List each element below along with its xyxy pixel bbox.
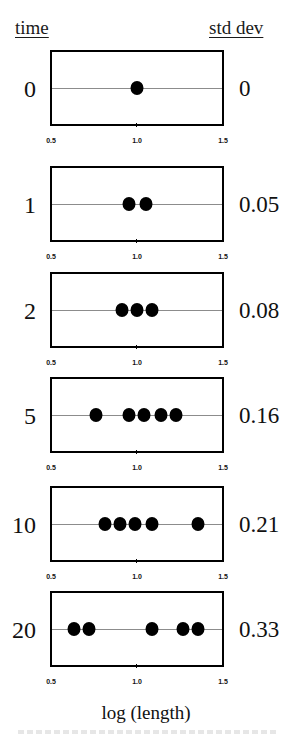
x-tick-label: 0.5: [46, 573, 56, 581]
std-dev-value-label: 0.21: [239, 513, 279, 537]
x-tick-label: 1.5: [218, 253, 228, 261]
x-tick-label: 0.5: [46, 464, 56, 472]
data-point-dot: [122, 408, 135, 422]
x-tick-label: 0.5: [46, 678, 56, 686]
x-tick-label: 0.5: [46, 359, 56, 367]
std-dev-value-label: 0.16: [239, 404, 279, 428]
data-point-dot: [129, 517, 142, 531]
data-point-dot: [115, 303, 128, 317]
center-tick-mark: [136, 123, 137, 127]
center-tick-mark: [136, 345, 137, 349]
std-dev-column-header: std dev: [209, 17, 263, 39]
data-point-dot: [139, 197, 152, 211]
strip-plot-box: [50, 591, 224, 667]
strip-plot-box: [50, 486, 224, 562]
x-tick-label: 0.5: [46, 137, 56, 145]
x-tick-label: 1.0: [132, 573, 142, 581]
x-tick-label: 1.0: [132, 137, 142, 145]
data-point-dot: [146, 303, 159, 317]
x-tick-label: 1.0: [132, 678, 142, 686]
x-tick-label: 1.5: [218, 359, 228, 367]
std-dev-value-label: 0.05: [239, 193, 279, 217]
time-value-label: 2: [24, 299, 36, 323]
x-tick-label: 1.5: [218, 573, 228, 581]
std-dev-value-label: 0: [239, 77, 251, 101]
time-value-label: 5: [24, 404, 36, 428]
data-point-dot: [192, 517, 205, 531]
x-tick-label: 0.5: [46, 253, 56, 261]
data-point-dot: [83, 622, 96, 636]
time-value-label: 0: [24, 77, 36, 101]
x-axis-label: log (length): [0, 702, 292, 724]
data-point-dot: [170, 408, 183, 422]
data-point-dot: [146, 622, 159, 636]
data-point-dot: [98, 517, 111, 531]
x-tick-label: 1.5: [218, 137, 228, 145]
x-tick-label: 1.5: [218, 678, 228, 686]
data-point-dot: [154, 408, 167, 422]
std-dev-value-label: 0.33: [239, 618, 279, 642]
center-tick-mark: [136, 450, 137, 454]
x-tick-label: 1.0: [132, 359, 142, 367]
data-point-dot: [146, 517, 159, 531]
center-line: [52, 204, 222, 205]
data-point-dot: [68, 622, 81, 636]
time-value-label: 10: [12, 513, 36, 537]
center-tick-mark: [136, 664, 137, 668]
center-tick-mark: [136, 239, 137, 243]
data-point-dot: [131, 81, 144, 95]
x-tick-label: 1.0: [132, 253, 142, 261]
data-point-dot: [131, 303, 144, 317]
x-tick-label: 1.0: [132, 464, 142, 472]
data-point-dot: [122, 197, 135, 211]
data-point-dot: [114, 517, 127, 531]
strip-plot-box: [50, 166, 224, 242]
time-value-label: 20: [12, 618, 36, 642]
strip-plot-box: [50, 377, 224, 453]
time-value-label: 1: [24, 193, 36, 217]
x-tick-label: 1.5: [218, 464, 228, 472]
data-point-dot: [137, 408, 150, 422]
data-point-dot: [90, 408, 103, 422]
data-point-dot: [192, 622, 205, 636]
time-column-header: time: [15, 17, 49, 39]
data-point-dot: [176, 622, 189, 636]
std-dev-value-label: 0.08: [239, 299, 279, 323]
strip-plot-box: [50, 50, 224, 126]
center-tick-mark: [136, 559, 137, 563]
cropped-caption-fragment: [18, 730, 276, 734]
strip-plot-box: [50, 272, 224, 348]
